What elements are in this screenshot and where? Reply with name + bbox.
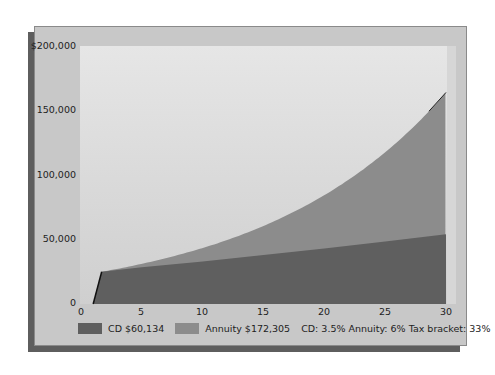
x-tick-label: 15 xyxy=(257,306,269,317)
legend: CD $60,134 Annuity $172,305 CD: 3.5% Ann… xyxy=(78,321,495,335)
legend-note: CD: 3.5% Annuity: 6% Tax bracket: 33% xyxy=(301,323,490,334)
x-tick-label: 30 xyxy=(440,306,452,317)
y-tick-label: $200,000 xyxy=(31,40,76,51)
legend-label-cd: CD $60,134 xyxy=(108,323,164,334)
y-tick-label: 0 xyxy=(70,297,76,308)
x-tick-label: 0 xyxy=(78,306,84,317)
rates-note: CD: 3.5% Annuity: 6% Tax bracket: 33% xyxy=(301,323,490,334)
x-tick-label: 25 xyxy=(379,306,391,317)
legend-swatch-annuity xyxy=(175,323,199,334)
legend-item-cd: CD $60,134 xyxy=(78,323,164,334)
legend-label-annuity: Annuity $172,305 xyxy=(205,323,290,334)
y-tick-label: 50,000 xyxy=(43,233,76,244)
legend-item-annuity: Annuity $172,305 xyxy=(175,323,290,334)
y-tick-label: 150,000 xyxy=(37,104,76,115)
y-tick-label: 100,000 xyxy=(37,169,76,180)
x-tick-label: 5 xyxy=(138,306,144,317)
legend-swatch-cd xyxy=(78,323,102,334)
x-tick-label: 20 xyxy=(318,306,330,317)
plot-right-strip xyxy=(447,46,456,304)
x-tick-label: 10 xyxy=(196,306,208,317)
